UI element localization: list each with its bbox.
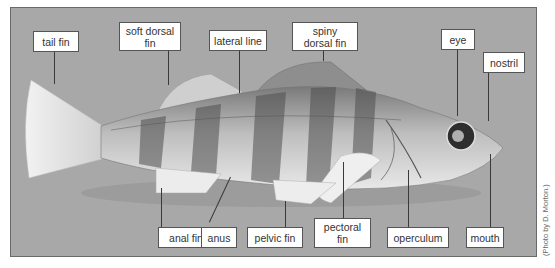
leader-nostril xyxy=(488,73,489,121)
label-nostril: nostril xyxy=(483,52,525,73)
label-pelvic-fin: pelvic fin xyxy=(247,227,303,248)
leader-lateral-line xyxy=(239,51,240,93)
label-anus: anus xyxy=(201,227,237,248)
leader-pelvic-fin xyxy=(285,201,286,227)
photo-credit: (Photo by D. Morton.) xyxy=(541,184,550,256)
label-eye: eye xyxy=(441,29,475,50)
leader-pectoral-fin xyxy=(343,162,344,218)
leader-spiny-dorsal-fin xyxy=(323,51,324,61)
label-operculum: operculum xyxy=(387,227,449,248)
leader-mouth xyxy=(490,154,491,227)
leader-anal-fin xyxy=(161,188,162,227)
label-tail-fin: tail fin xyxy=(33,31,79,52)
tail-fin-shape xyxy=(25,80,106,178)
leader-operculum xyxy=(408,170,409,227)
label-spiny-dorsal-fin: spiny dorsal fin xyxy=(292,22,358,51)
leader-tail-fin xyxy=(54,52,55,84)
leader-soft-dorsal-fin xyxy=(168,51,169,85)
label-mouth: mouth xyxy=(466,227,504,248)
label-lateral-line: lateral line xyxy=(209,30,267,51)
leader-eye xyxy=(457,50,458,116)
label-pectoral-fin: pectoral fin xyxy=(314,218,371,248)
label-soft-dorsal-fin: soft dorsal fin xyxy=(119,22,181,51)
